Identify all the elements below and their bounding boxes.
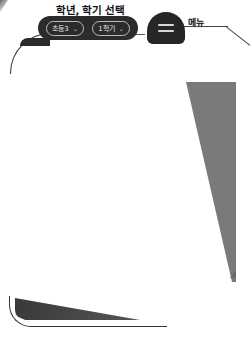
frame-outline bbox=[184, 26, 228, 27]
grade-value: 초등3 bbox=[52, 23, 68, 33]
menu-annotation-label: 메뉴 bbox=[188, 16, 203, 29]
side-shadow-wedge bbox=[186, 82, 236, 282]
frame-outline-connector bbox=[135, 34, 145, 35]
semester-dropdown[interactable]: 1학기 ⌄ bbox=[92, 21, 130, 36]
tutorial-overlay: 학년, 학기 선택 메뉴 초등3 ⌄ 1학기 ⌄ bbox=[0, 0, 250, 341]
chevron-down-icon: ⌄ bbox=[119, 25, 124, 32]
chevron-down-icon: ⌄ bbox=[73, 25, 78, 32]
hamburger-icon bbox=[158, 24, 174, 26]
hamburger-icon-line bbox=[158, 30, 174, 32]
select-annotation-label: 학년, 학기 선택 bbox=[56, 2, 125, 17]
grade-dropdown[interactable]: 초등3 ⌄ bbox=[46, 21, 84, 36]
menu-button[interactable] bbox=[147, 12, 185, 44]
corner-shade bbox=[0, 0, 8, 12]
grade-semester-selector: 초등3 ⌄ 1학기 ⌄ bbox=[38, 16, 138, 40]
semester-value: 1학기 bbox=[98, 23, 114, 33]
frame-outline-diagonal bbox=[225, 26, 250, 51]
